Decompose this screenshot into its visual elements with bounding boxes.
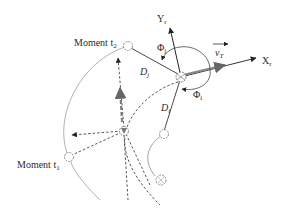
robot-moment-t1 [65, 153, 74, 162]
robot-target [176, 72, 186, 82]
phi-i-label: Φi [193, 89, 202, 102]
robot-lower [156, 175, 166, 185]
trajectory-arc [64, 46, 128, 200]
dashed-line-down [124, 135, 128, 200]
dashed-arrow-left [72, 131, 122, 135]
distance-line-j [131, 48, 178, 74]
moment-t1-label: Moment t1 [17, 159, 60, 172]
phi-j-angle-arc [162, 47, 210, 70]
robot-connection-curve [148, 136, 161, 176]
velocity-vector [183, 65, 225, 75]
moment-t2-label: Moment t2 [74, 37, 117, 50]
x-axis-label: Xr [262, 55, 272, 68]
velocity-label: vT [215, 47, 224, 60]
robot-center [120, 127, 129, 136]
robot-i [160, 130, 169, 139]
dashed-path-up [118, 58, 124, 128]
robot-moment-t2 [124, 42, 133, 51]
dashed-line-diag [126, 134, 150, 185]
y-axis-label: Yr [157, 13, 167, 26]
d-j-label: Dj [139, 66, 149, 79]
phi-j-label: Φj [157, 42, 166, 55]
d-i-label: Di [160, 102, 170, 115]
dashed-arc [125, 82, 178, 205]
robot-formation-diagram: Moment t2 Moment t1 Yr Xr vT Φj Φi Dj Di [0, 0, 287, 217]
y-axis-arrow [170, 28, 181, 77]
dashed-line-t1 [72, 132, 122, 155]
